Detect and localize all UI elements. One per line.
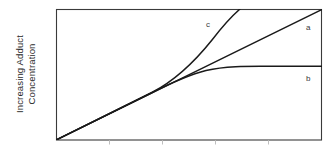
curve-label-a: a: [306, 24, 310, 32]
curve-label-b: b: [306, 75, 310, 83]
x-axis-ticks: [110, 140, 269, 145]
curve-label-c: c: [206, 21, 210, 29]
chart-figure: Increasing Adduct Concentration a b: [0, 0, 332, 155]
plot-area: [0, 0, 332, 155]
